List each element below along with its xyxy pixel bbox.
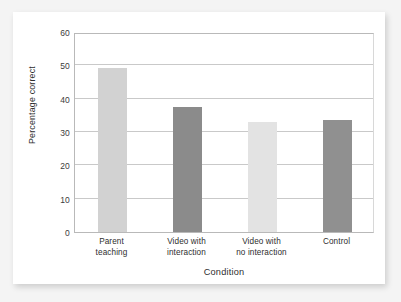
y-tick-label-50: 50 (40, 62, 70, 71)
y-tick-label-60: 60 (40, 29, 70, 38)
y-tick-label-10: 10 (40, 195, 70, 204)
y-tick-label-40: 40 (40, 95, 70, 104)
x-tick-label-control: Control (299, 236, 374, 266)
x-tick-label-video-with-interaction: Video withinteraction (149, 236, 224, 266)
x-tick-line-2: no interaction (224, 247, 299, 258)
x-tick-line-2: teaching (74, 247, 149, 258)
y-tick-label-0: 0 (40, 229, 70, 238)
x-tick-label-video-with-no-interaction: Video withno interaction (224, 236, 299, 266)
y-tick-label-20: 20 (40, 162, 70, 171)
bar-control[interactable] (323, 120, 352, 232)
y-tick-label-30: 30 (40, 129, 70, 138)
x-tick-line-1: Parent (99, 237, 124, 246)
x-tick-line-1: Video with (242, 237, 281, 246)
x-tick-line-1: Control (323, 237, 350, 246)
bar-parent-teaching[interactable] (98, 68, 127, 232)
x-tick-line-1: Video with (167, 237, 206, 246)
x-tick-label-parent-teaching: Parentteaching (74, 236, 149, 266)
figure-card: Percentage correct 0102030405060 Parentt… (13, 12, 385, 284)
page-background: Percentage correct 0102030405060 Parentt… (0, 0, 401, 302)
x-axis-title: Condition (74, 267, 374, 277)
bars-group (75, 34, 373, 232)
y-axis-tick-labels: 0102030405060 (35, 33, 70, 233)
x-tick-line-2: interaction (149, 247, 224, 258)
bar-video-with-interaction[interactable] (173, 107, 202, 232)
plot-area (74, 33, 374, 233)
bar-chart: Percentage correct 0102030405060 Parentt… (13, 12, 385, 284)
bar-video-with-no-interaction[interactable] (248, 122, 277, 232)
x-axis-tick-labels: ParentteachingVideo withinteractionVideo… (74, 236, 374, 266)
